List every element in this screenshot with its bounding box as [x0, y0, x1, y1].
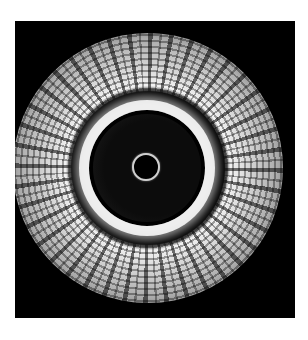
catheter-ring [132, 153, 160, 181]
ultrasound-frame [15, 21, 295, 318]
